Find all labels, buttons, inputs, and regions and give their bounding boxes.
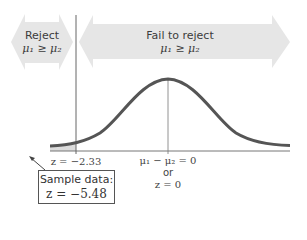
- normal-curve: [50, 79, 290, 146]
- reject-title: Reject: [12, 29, 72, 42]
- sample-data-box: Sample data: z = −5.48: [38, 170, 115, 204]
- fail-to-reject-region-label: Fail to reject μ₁ ≥ μ₂: [130, 29, 230, 55]
- critical-value-text: z = −2.33: [51, 156, 102, 167]
- center-label-line3: z = 0: [128, 179, 208, 191]
- reject-hypothesis: μ₁ ≥ μ₂: [12, 42, 72, 55]
- fail-to-reject-title: Fail to reject: [130, 29, 230, 42]
- reject-region-label: Reject μ₁ ≥ μ₂: [12, 29, 72, 55]
- critical-value-label: z = −2.33: [46, 155, 106, 168]
- sample-data-value: z = −5.48: [39, 187, 114, 201]
- fail-to-reject-hypothesis: μ₁ ≥ μ₂: [130, 42, 230, 55]
- center-label-line1: μ₁ − μ₂ = 0: [128, 155, 208, 167]
- center-label-line2: or: [128, 167, 208, 179]
- center-label: μ₁ − μ₂ = 0 or z = 0: [128, 155, 208, 191]
- sample-data-title: Sample data:: [39, 173, 114, 187]
